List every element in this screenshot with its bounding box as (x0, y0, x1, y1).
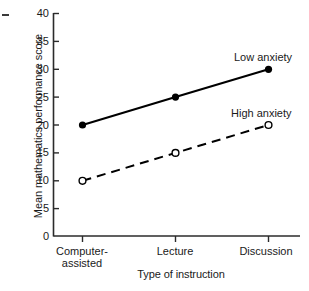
y-tick-label-10: 10 (23, 175, 49, 186)
y-tick-label-35: 35 (23, 36, 49, 47)
series-label-high-anxiety: High anxiety (231, 108, 292, 119)
y-tick-label-0: 0 (23, 231, 49, 242)
data-point-low-anxiety-2 (265, 66, 272, 73)
x-tick-label-discussion: Discussion (218, 245, 309, 257)
y-axis-ticks (54, 14, 60, 209)
data-point-low-anxiety-1 (172, 94, 179, 101)
data-point-low-anxiety-0 (79, 121, 86, 128)
series-high-anxiety (79, 122, 272, 185)
x-tick-label-computer-assisted: Computer- assisted (34, 245, 130, 269)
data-point-high-anxiety-1 (172, 150, 179, 157)
x-tick-label-line-1: Computer- (34, 245, 130, 257)
y-tick-label-5: 5 (23, 203, 49, 214)
y-tick-label-25: 25 (23, 92, 49, 103)
data-point-high-anxiety-2 (265, 122, 272, 129)
series-low-anxiety (79, 66, 272, 129)
series-label-low-anxiety: Low anxiety (234, 52, 292, 63)
y-tick-label-15: 15 (23, 147, 49, 158)
y-tick-label-40: 40 (23, 8, 49, 19)
y-tick-label-20: 20 (23, 120, 49, 131)
x-axis-ticks (83, 236, 269, 242)
line-chart-figure: Mean mathematics performance score (0, 0, 309, 291)
x-tick-label-lecture: Lecture (127, 245, 223, 257)
x-axis-title: Type of instruction (53, 268, 309, 280)
data-point-high-anxiety-0 (79, 177, 86, 184)
y-tick-label-30: 30 (23, 64, 49, 75)
